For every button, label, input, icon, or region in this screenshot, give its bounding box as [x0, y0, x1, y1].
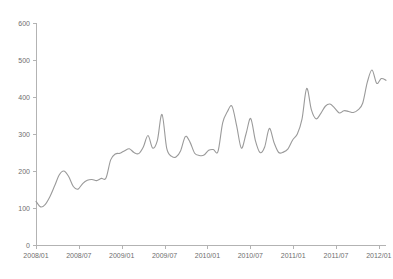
x-tick-label: 2009/01 [109, 252, 134, 259]
x-tick-label: 2011/01 [281, 252, 306, 259]
y-tick-label: 500 [18, 57, 30, 64]
x-tick-label: 2010/07 [238, 252, 263, 259]
y-tick-label: 600 [18, 20, 30, 27]
y-axis: 0100200300400500600 [18, 20, 36, 249]
x-tick-label: 2012/01 [366, 252, 391, 259]
series-line-value [36, 70, 386, 207]
x-tick-label: 2008/01 [23, 252, 48, 259]
line-chart-figure: 0100200300400500600 2008/012008/072009/0… [0, 0, 393, 279]
y-tick-label: 300 [18, 131, 30, 138]
x-tick-label: 2009/07 [152, 252, 177, 259]
x-tick-label: 2008/07 [66, 252, 91, 259]
chart-canvas: 0100200300400500600 2008/012008/072009/0… [0, 0, 393, 279]
x-axis: 2008/012008/072009/012009/072010/012010/… [23, 246, 391, 260]
y-tick-label: 100 [18, 205, 30, 212]
x-tick-label: 2011/07 [324, 252, 349, 259]
y-tick-label: 200 [18, 168, 30, 175]
y-tick-label: 400 [18, 94, 30, 101]
x-tick-label: 2010/01 [195, 252, 220, 259]
y-tick-label: 0 [26, 242, 30, 249]
